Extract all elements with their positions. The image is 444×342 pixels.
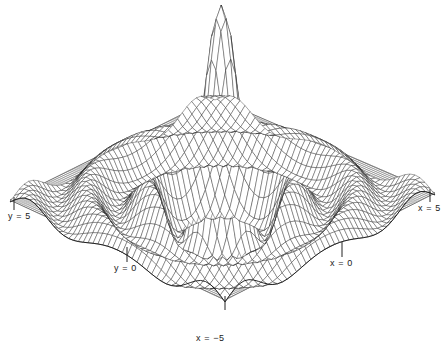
surface-plot-figure: y = 5 x = 5 y = 0 x = 0 x = −5 y = −5 — [0, 0, 444, 342]
axis-label-x-max: x = 5 — [418, 203, 441, 214]
axis-label-y-max: y = 5 — [8, 211, 31, 222]
axis-label-x-zero: x = 0 — [330, 258, 353, 269]
axis-label-origin-x: x = −5 — [196, 333, 225, 342]
axis-label-y-zero: y = 0 — [114, 263, 137, 274]
axis-label-origin-corner: x = −5 y = −5 — [196, 311, 225, 342]
surface-plot-canvas — [0, 0, 444, 342]
